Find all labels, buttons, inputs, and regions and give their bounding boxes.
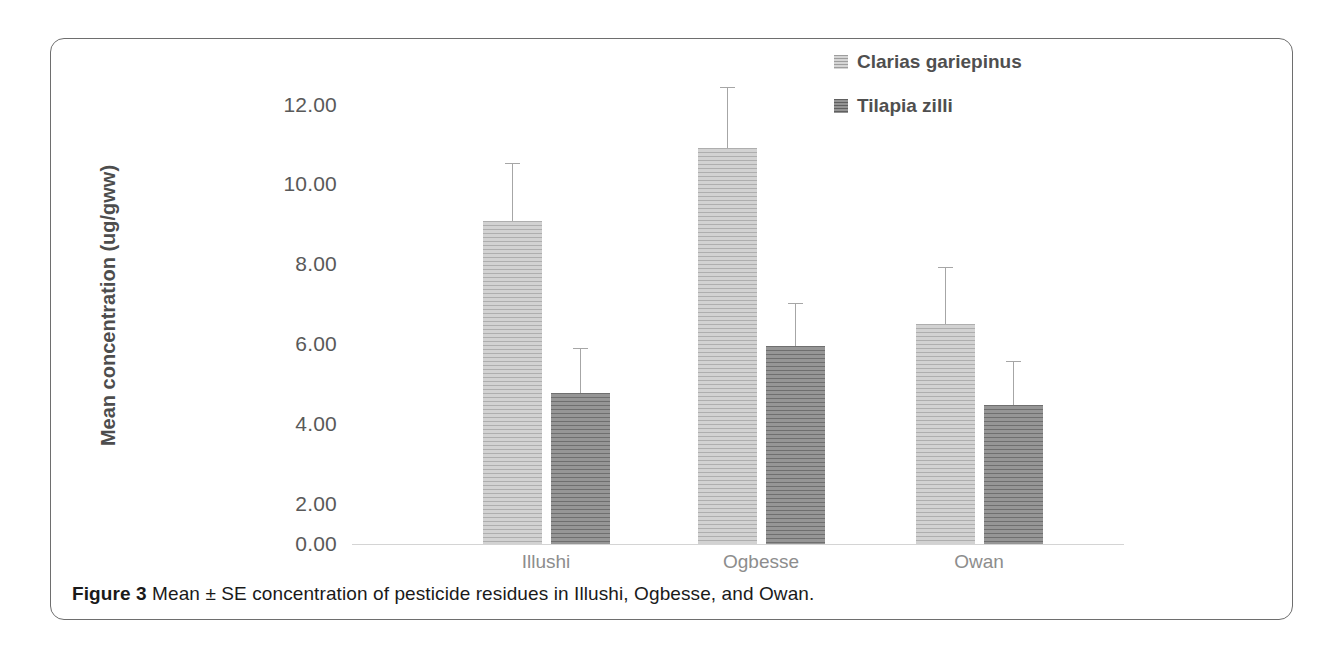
legend-label-tilapia-zilli: Tilapia zilli	[857, 95, 953, 117]
figure-caption-label: Figure 3	[72, 583, 147, 604]
y-axis-title: Mean concentration (ug/gww)	[97, 161, 120, 451]
legend-label-clarias-gariepinus: Clarias gariepinus	[857, 51, 1022, 73]
figure-panel: Mean concentration (ug/gww) 12.00 10.00 …	[50, 38, 1293, 620]
y-tick-12: 12.00	[251, 93, 337, 117]
bar-illushi-series1	[483, 221, 542, 544]
x-label-illushi: Illushi	[522, 551, 571, 573]
error-bar-owan-series2	[1013, 362, 1014, 405]
error-cap-illushi-series1	[505, 163, 520, 164]
x-axis-line	[352, 544, 1124, 545]
y-tick-6: 6.00	[251, 332, 337, 356]
error-bar-illushi-series2	[580, 349, 581, 393]
bar-ogbesse-series1	[698, 148, 757, 544]
error-bar-ogbesse-series2	[795, 304, 796, 346]
error-bar-illushi-series1	[512, 164, 513, 221]
x-label-ogbesse: Ogbesse	[723, 551, 799, 573]
x-label-owan: Owan	[954, 551, 1004, 573]
bar-owan-series1	[916, 324, 975, 544]
error-cap-ogbesse-series1	[720, 87, 735, 88]
bar-chart: Mean concentration (ug/gww) 12.00 10.00 …	[51, 39, 1294, 621]
y-tick-8: 8.00	[251, 252, 337, 276]
legend-item-clarias-gariepinus[interactable]: Clarias gariepinus	[834, 51, 1164, 73]
error-bar-ogbesse-series1	[727, 88, 728, 148]
figure-caption-text: Mean ± SE concentration of pesticide res…	[152, 583, 814, 604]
y-axis-tick-labels: 12.00 10.00 8.00 6.00 4.00 2.00 0.00	[251, 39, 337, 621]
legend-swatch-icon-light	[834, 55, 848, 69]
bar-illushi-series2	[551, 393, 610, 544]
bar-ogbesse-series2	[766, 346, 825, 544]
legend-swatch-icon-dark	[834, 99, 848, 113]
error-bar-owan-series1	[945, 268, 946, 324]
error-cap-owan-series2	[1006, 361, 1021, 362]
error-cap-owan-series1	[938, 267, 953, 268]
y-tick-4: 4.00	[251, 412, 337, 436]
bar-owan-series2	[984, 405, 1043, 544]
legend-item-tilapia-zilli[interactable]: Tilapia zilli	[834, 95, 1164, 117]
y-tick-0: 0.00	[251, 532, 337, 556]
y-tick-2: 2.00	[251, 492, 337, 516]
legend: Clarias gariepinus Tilapia zilli	[834, 51, 1164, 139]
error-cap-illushi-series2	[573, 348, 588, 349]
figure-caption: Figure 3 Mean ± SE concentration of pest…	[72, 583, 1272, 605]
error-cap-ogbesse-series2	[788, 303, 803, 304]
y-tick-10: 10.00	[251, 172, 337, 196]
